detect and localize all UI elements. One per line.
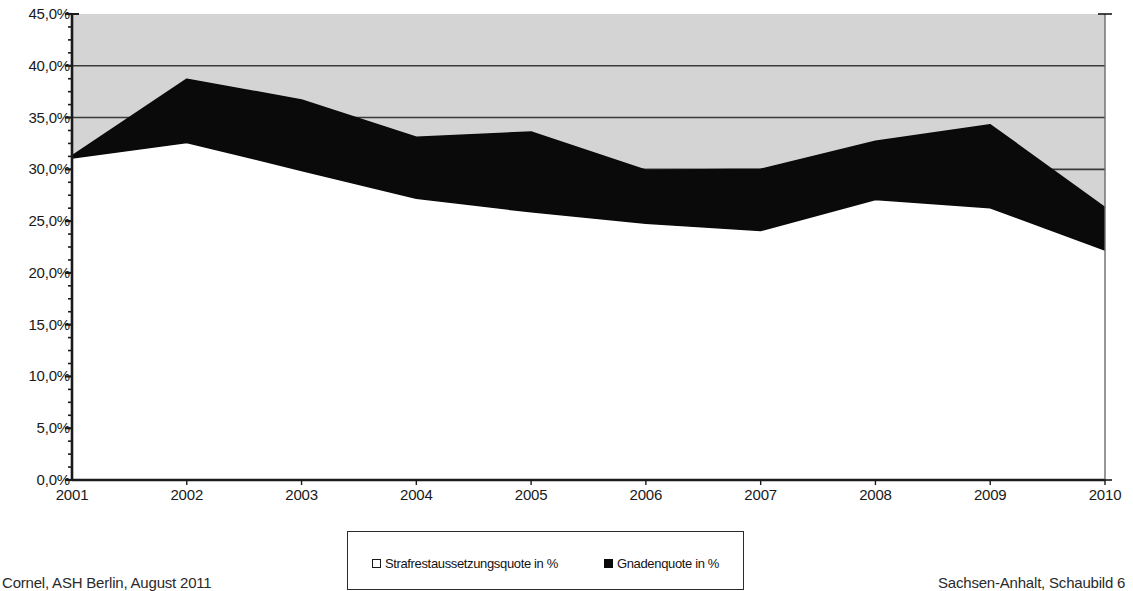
x-tick-label-2007: 2007	[726, 487, 796, 502]
x-tick-label-2003: 2003	[267, 487, 337, 502]
x-tick-label-2008: 2008	[840, 487, 910, 502]
legend-label-gnadenquote: Gnadenquote in %	[617, 556, 719, 571]
y-tick-label-25: 25,0%	[8, 213, 70, 228]
y-tick-label-40: 40,0%	[8, 58, 70, 73]
chart-legend: Strafrestaussetzungsquote in % Gnadenquo…	[347, 531, 744, 590]
y-tick-label-0: 0,0%	[8, 472, 70, 487]
y-tick-label-5: 5,0%	[8, 420, 70, 435]
x-tick-label-2004: 2004	[381, 487, 451, 502]
legend-entry-gnadenquote: Gnadenquote in %	[604, 556, 719, 571]
x-tick-label-2005: 2005	[496, 487, 566, 502]
y-tick-label-15: 15,0%	[8, 317, 70, 332]
legend-swatch-filled-square-icon	[604, 559, 613, 568]
footer-caption-right: Sachsen-Anhalt, Schaubild 6	[938, 575, 1125, 590]
legend-label-strafrestaussetzungsquote: Strafrestaussetzungsquote in %	[385, 556, 558, 571]
y-tick-label-10: 10,0%	[8, 368, 70, 383]
y-tick-label-35: 35,0%	[8, 110, 70, 125]
x-tick-label-2006: 2006	[611, 487, 681, 502]
x-tick-label-2001: 2001	[37, 487, 107, 502]
x-tick-label-2009: 2009	[955, 487, 1025, 502]
y-tick-label-45: 45,0%	[8, 6, 70, 21]
x-tick-label-2002: 2002	[152, 487, 222, 502]
legend-entry-strafrestaussetzungsquote: Strafrestaussetzungsquote in %	[372, 556, 558, 571]
y-tick-label-30: 30,0%	[8, 161, 70, 176]
footer-source-left: Cornel, ASH Berlin, August 2011	[2, 575, 211, 590]
legend-swatch-hollow-square-icon	[372, 559, 381, 568]
x-tick-label-2010: 2010	[1070, 487, 1133, 502]
y-tick-label-20: 20,0%	[8, 265, 70, 280]
